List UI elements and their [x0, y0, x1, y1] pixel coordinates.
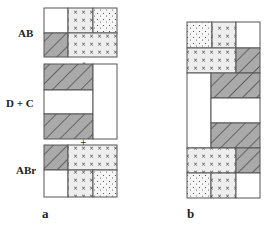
block-abr: [44, 145, 117, 197]
row-label-dc: D + C: [6, 97, 34, 109]
diagram-canvas: × AB D + C ABr ⌄ +: [0, 0, 269, 228]
cell-dots: [187, 22, 212, 48]
cell-crosses: [187, 48, 236, 73]
cell-white: [93, 64, 117, 139]
row-label-ab: AB: [18, 27, 34, 39]
cell-hatched: [236, 148, 260, 173]
cell-crosses: [187, 148, 236, 173]
cell-dots: [187, 173, 211, 198]
caption-a: a: [42, 206, 49, 221]
cell-hatched: [236, 48, 260, 73]
cell-white: [187, 73, 211, 148]
cell-hatched: [44, 114, 93, 139]
cell-crosses: [68, 33, 117, 57]
cell-white: [211, 98, 260, 123]
caption-b: b: [187, 206, 194, 221]
block-dc: [44, 64, 117, 139]
cell-white: [44, 90, 93, 114]
row-label-abr: ABr: [16, 164, 36, 176]
cell-white: [44, 8, 68, 33]
cell-dots: [93, 170, 117, 197]
cell-crosses: [68, 170, 93, 197]
cell-hatched: [44, 64, 93, 90]
cell-crosses: [68, 145, 117, 170]
cell-crosses: [212, 22, 236, 48]
cell-dots: [93, 8, 117, 33]
cell-white: [44, 170, 68, 197]
cell-hatched: [211, 73, 260, 98]
cell-crosses: [68, 8, 93, 33]
panel-a: AB D + C ABr ⌄ + a: [6, 8, 117, 221]
cell-hatched: [44, 145, 68, 170]
cell-white: [236, 173, 260, 198]
cell-hatched: [44, 33, 68, 57]
cell-hatched: [211, 123, 260, 148]
block-ab: [44, 8, 117, 57]
cell-white: [236, 22, 260, 48]
panel-b: b: [187, 22, 260, 221]
cell-crosses: [211, 173, 236, 198]
